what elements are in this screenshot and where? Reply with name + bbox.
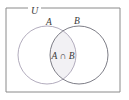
venn-diagram-figure: U A B A ∩ B — [0, 0, 129, 100]
venn-diagram-canvas: U A B A ∩ B — [0, 0, 129, 100]
universe-label: U — [31, 5, 39, 16]
intersection-label: A ∩ B — [50, 51, 74, 61]
set-b-label: B — [74, 16, 80, 26]
set-a-label: A — [45, 17, 52, 27]
